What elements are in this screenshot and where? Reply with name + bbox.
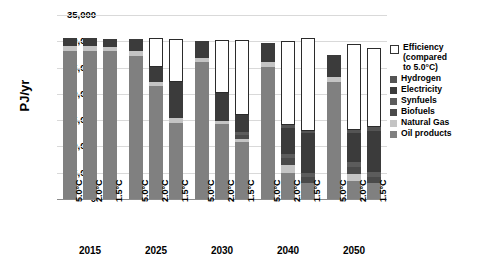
bar-segment-ele [103,39,117,47]
bar-segment-ele [327,55,341,77]
x-tick-label: 1.5°C [312,179,322,202]
legend-label: Synfuels [401,95,437,105]
legend-item: Biofuels [390,106,480,116]
bar-segment-bio [281,158,295,165]
x-tick: 5.0°C [261,202,275,242]
bar [367,48,381,199]
bar-segment-bio [347,167,361,174]
bar-segment-oil [129,56,143,199]
x-tick-label: 2.0°C [292,179,302,202]
x-tick: 1.5°C [301,202,315,242]
x-tick-label: 5.0°C [338,179,348,202]
x-tick: 5.0°C [327,202,341,242]
x-tick: 5.0°C [129,202,143,242]
x-tick-label: 1.5°C [180,179,190,202]
chart-legend: Efficiency(comparedto 5.0°C)HydrogenElec… [390,42,480,139]
bar-segment-eff [169,39,183,82]
bar-segment-eff [149,38,163,66]
bar [149,38,163,199]
x-tick: 5.0°C [63,202,77,242]
bar-segment-oil [103,51,117,199]
legend-label: Oil products [401,128,452,138]
bar-segment-ele [261,43,275,61]
x-tick: 2.0°C [281,202,295,242]
bar-segment-ele [367,131,381,172]
legend-item: Hydrogen [390,73,480,83]
legend-swatch-eff [390,45,399,54]
bar-segment-eff [347,44,361,130]
legend-item: Electricity [390,84,480,94]
bar [301,38,315,199]
bar-segment-ele [281,128,295,154]
bar-segment-eff [301,38,315,131]
plot-area [57,15,387,199]
x-tick: 5.0°C [195,202,209,242]
x-tick: 2.0°C [215,202,229,242]
bar-segment-ele [149,67,163,83]
bar [169,39,183,199]
bar [83,38,97,199]
y-axis-title: PJ/yr [17,66,32,126]
x-tick: 2.0°C [83,202,97,242]
x-tick-label: 5.0°C [272,179,282,202]
legend-label: Hydrogen [401,73,441,83]
bar-segment-ele [129,39,143,52]
legend-swatch-oil [390,131,397,138]
bar-segment-eff [215,40,229,94]
x-tick-label: 2.0°C [160,179,170,202]
x-tick: 2.0°C [149,202,163,242]
legend-label: Electricity [401,84,442,94]
x-tick-label: 1.5°C [246,179,256,202]
bar-segment-eff [235,40,249,116]
x-tick: 2.0°C [347,202,361,242]
x-tick-label: 2.0°C [94,179,104,202]
bar [215,40,229,199]
legend-item: Natural Gas [390,117,480,127]
x-tick-label: 5.0°C [140,179,150,202]
bar-segment-ele [83,38,97,46]
legend-swatch-gas [390,120,397,127]
legend-item: Efficiency(comparedto 5.0°C) [390,42,480,72]
x-group-label: 2030 [187,245,257,256]
x-tick-label: 2.0°C [226,179,236,202]
bar-segment-oil [83,51,97,199]
x-group-label: 2015 [55,245,125,256]
legend-label: Biofuels [401,106,435,116]
chart-container: PJ/yr 05,00010,00015,00020,00025,00030,0… [0,0,480,264]
x-tick-label: 1.5°C [378,179,388,202]
bar-segment-ele [235,115,249,132]
x-group-label: 2050 [319,245,389,256]
legend-swatch-ele [390,87,397,94]
x-tick: 1.5°C [103,202,117,242]
bar [63,38,77,199]
bar-segment-eff [281,41,295,126]
legend-swatch-bio [390,109,397,116]
x-tick-label: 5.0°C [74,179,84,202]
bar [347,44,361,199]
bar [195,41,209,199]
bar-segment-ele [169,82,183,118]
bar-segment-ele [63,38,77,46]
bar-segment-ele [301,133,315,172]
bar [235,40,249,199]
x-tick-label: 2.0°C [358,179,368,202]
legend-label: Natural Gas [401,117,449,127]
x-tick: 1.5°C [235,202,249,242]
legend-item: Synfuels [390,95,480,105]
legend-swatch-hyd [390,76,397,83]
bar [261,43,275,199]
bar-segment-ele [215,93,229,120]
bar [103,39,117,199]
x-group-label: 2025 [121,245,191,256]
bar [281,41,295,199]
x-tick: 1.5°C [169,202,183,242]
legend-label: Efficiency(comparedto 5.0°C) [403,42,447,72]
bar-segment-oil [63,51,77,199]
bar-segment-ele [195,41,209,57]
bar-segment-eff [367,48,381,127]
legend-swatch-syn [390,98,397,105]
x-group-label: 2040 [253,245,323,256]
x-tick: 1.5°C [367,202,381,242]
x-tick-label: 5.0°C [206,179,216,202]
bar [129,39,143,199]
